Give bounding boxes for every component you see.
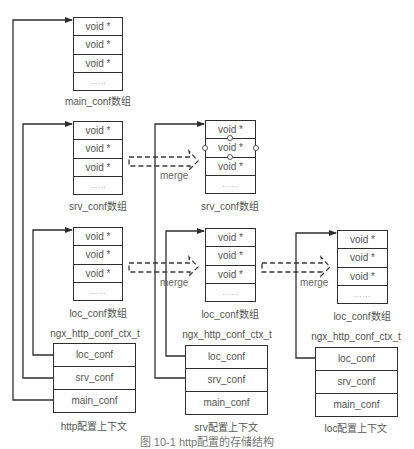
http-srv-conf-array: void * void * void * …… (73, 121, 123, 195)
ctx-field-main-conf: main_conf (316, 394, 397, 417)
ctx-field-srv-conf: srv_conf (54, 367, 135, 390)
ctx-field-loc-conf: loc_conf (316, 348, 397, 371)
array-cell-ellipsis: …… (74, 177, 122, 195)
array-cell: void * (338, 268, 387, 286)
srv-ctx-caption: srv配置上下文 (176, 419, 276, 434)
srv-config-context: loc_conf srv_conf main_conf (185, 345, 268, 415)
array-cell: void * (206, 266, 255, 284)
array-cell-ellipsis: …… (206, 176, 255, 194)
figure-caption: 图 10-1 http配置的存储结构 (0, 433, 414, 449)
array-cell: void * (74, 159, 122, 177)
array-cell: void * (74, 18, 122, 36)
selection-handle-top[interactable] (227, 135, 233, 141)
main-conf-array: void * void * void * …… (73, 17, 123, 91)
array-cell: void * (74, 140, 122, 158)
ctx-field-srv-conf: srv_conf (186, 369, 267, 392)
array-cell: void * (74, 36, 122, 54)
ctx-field-loc-conf: loc_conf (54, 344, 135, 367)
selection-handle-right[interactable] (253, 145, 259, 151)
http-config-context: loc_conf srv_conf main_conf (53, 343, 136, 413)
http-ctx-caption: http配置上下文 (44, 418, 144, 433)
ctx-field-srv-conf: srv_conf (316, 371, 397, 394)
array-cell: void * (74, 228, 122, 246)
array-cell-ellipsis: …… (74, 73, 122, 91)
srv-loc-conf-array-label: loc_conf数组 (195, 306, 265, 321)
array-cell: void * (338, 231, 387, 249)
ctx-field-main-conf: main_conf (186, 392, 267, 415)
array-cell: void * (206, 229, 255, 247)
merge-label: merge (300, 277, 328, 288)
loc-ctx-type-label: ngx_http_conf_ctx_t (301, 331, 411, 342)
loc-config-context: loc_conf srv_conf main_conf (315, 347, 398, 417)
array-cell: void * (206, 158, 255, 176)
http-srv-conf-array-label: srv_conf数组 (63, 198, 133, 213)
merge-label: merge (160, 277, 188, 288)
selection-handle-left[interactable] (202, 145, 208, 151)
loc-loc-conf-array-label: loc_conf数组 (327, 308, 397, 323)
http-loc-conf-array: void * void * void * …… (73, 227, 123, 301)
array-cell-ellipsis: …… (74, 283, 122, 301)
srv-srv-conf-array-label: srv_conf数组 (195, 198, 265, 213)
array-cell: void * (338, 249, 387, 267)
array-cell-ellipsis: …… (206, 284, 255, 302)
srv-ctx-type-label: ngx_http_conf_ctx_t (172, 329, 282, 340)
array-cell: void * (74, 246, 122, 264)
merge-label: merge (160, 170, 188, 181)
ctx-field-main-conf: main_conf (54, 390, 135, 413)
http-loc-conf-array-label: loc_conf数组 (63, 305, 133, 320)
srv-loc-conf-array: void * void * void * …… (205, 228, 256, 302)
array-cell-ellipsis: …… (338, 286, 387, 304)
selection-handle-bottom[interactable] (227, 154, 233, 160)
array-cell: void * (206, 247, 255, 265)
ctx-field-loc-conf: loc_conf (186, 346, 267, 369)
http-ctx-type-label: ngx_http_conf_ctx_t (40, 328, 150, 339)
array-cell: void * (74, 55, 122, 73)
array-cell: void * (74, 122, 122, 140)
array-cell: void * (74, 265, 122, 283)
loc-loc-conf-array: void * void * void * …… (337, 230, 388, 304)
main-conf-array-label: main_conf数组 (63, 93, 133, 108)
